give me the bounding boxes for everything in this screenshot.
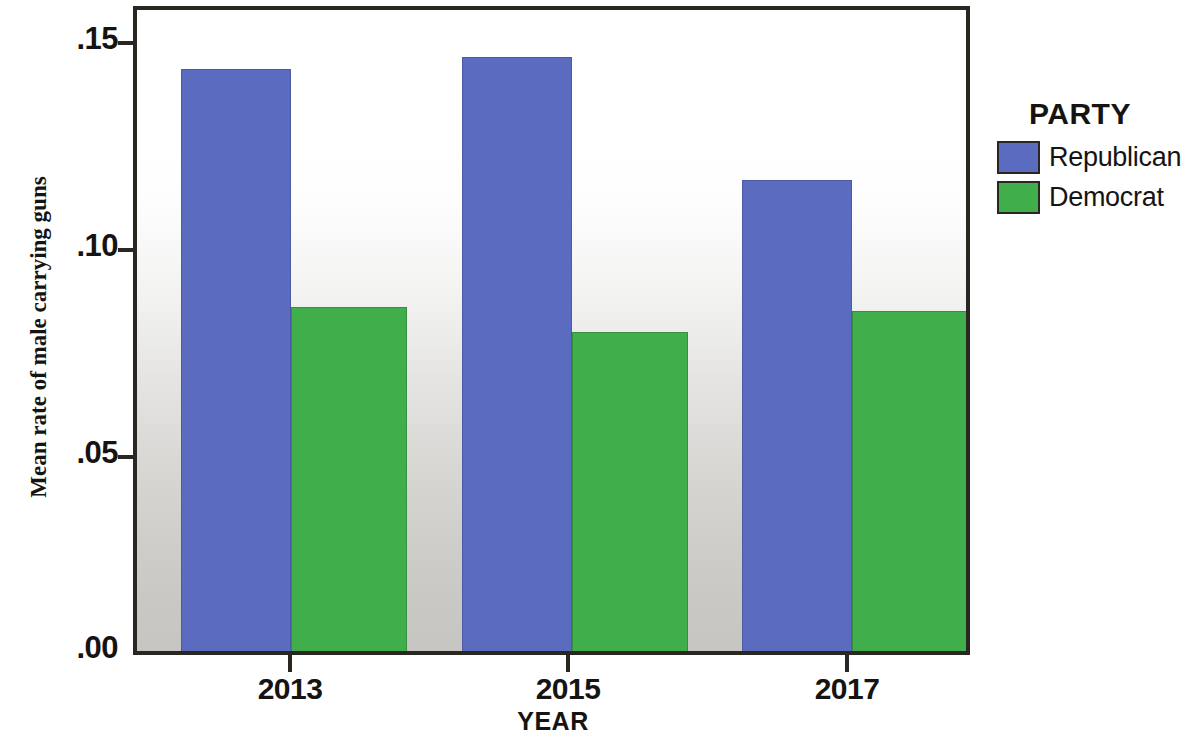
bar-republican-2017 — [742, 180, 852, 651]
bar-democrat-2017 — [852, 311, 968, 651]
x-axis-tick-2017 — [845, 655, 849, 672]
y-axis-title: Mean rate of male carrying guns — [26, 102, 52, 572]
x-axis-tick-2013 — [288, 655, 292, 672]
legend-swatch-republican — [997, 141, 1040, 174]
y-axis-tick-005 — [118, 455, 133, 459]
x-axis-label-2017: 2017 — [767, 672, 927, 706]
bar-chart-figure: .15 .10 .05 .00 Mean rate of male carryi… — [0, 0, 1194, 741]
bar-democrat-2013 — [291, 307, 407, 651]
x-axis-tick-2015 — [566, 655, 570, 672]
legend-title: PARTY — [1029, 97, 1193, 131]
legend-item-democrat: Democrat — [997, 181, 1193, 214]
plot-area — [133, 6, 970, 655]
x-axis-label-2015: 2015 — [488, 672, 648, 706]
y-axis-label-000: .00 — [28, 630, 118, 666]
bar-republican-2013 — [181, 69, 291, 651]
bar-democrat-2015 — [572, 332, 688, 651]
bar-republican-2015 — [462, 57, 572, 651]
legend-swatch-democrat — [997, 181, 1040, 214]
legend: PARTY Republican Democrat — [997, 97, 1193, 221]
y-axis-tick-010 — [118, 248, 133, 252]
legend-item-republican: Republican — [997, 141, 1193, 174]
x-axis-title: YEAR — [433, 707, 673, 736]
legend-label-democrat: Democrat — [1049, 182, 1164, 213]
legend-label-republican: Republican — [1049, 142, 1181, 173]
plot-canvas — [137, 10, 966, 651]
y-axis-label-015: .15 — [28, 21, 118, 57]
x-axis-label-2013: 2013 — [210, 672, 370, 706]
y-axis-tick-015 — [118, 41, 133, 45]
